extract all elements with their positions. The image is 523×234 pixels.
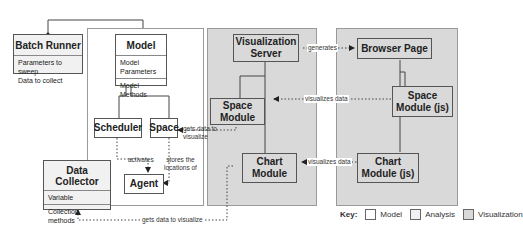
visualizes-data-space-label: visualizes data [304,95,349,103]
data-collector-attributes: Variable [44,191,110,205]
model-attr: Model [120,58,162,67]
legend-title: Key: [340,210,357,219]
legend-label-visualization: Visualization [478,210,523,219]
browser-page-title: Browser Page [361,43,428,55]
space-module-js-box: Space Module (js) [392,86,453,117]
legend-label-model: Model [380,210,402,219]
generates-label: generates [307,44,338,52]
label-line: locations of [164,164,197,172]
legend-swatch-visualization [463,209,474,220]
legend: Key: Model Analysis Visualization [340,209,523,220]
model-methods: Model Methods [116,79,166,101]
activates-label: activates [128,156,154,164]
space-box: Space [150,118,178,138]
space-module-box: Space Module [210,98,265,125]
title-line: Chart [375,156,401,168]
agent-box: Agent [124,174,164,194]
title-line: Chart [256,156,282,168]
agent-title: Agent [130,178,158,190]
title-line: Module (js) [396,102,449,114]
title-line: Module [220,112,255,124]
model-attributes: Model Parameters [116,56,166,79]
title-line: Server [250,48,281,60]
browser-page-box: Browser Page [357,38,432,59]
visualizes-data-chart-label: visualizes data [307,158,352,166]
model-attr: Parameters [120,67,162,76]
title-line: Module (js) [362,168,415,180]
visualization-server-box: Visualization Server [233,34,299,62]
label-line: stores the [164,156,197,164]
space-title: Space [149,122,178,134]
model-box: Model Model Parameters Model Methods [115,34,167,86]
label-line: gets data to [183,125,217,133]
method-line: Collection [48,207,106,216]
batch-runner-attr: Data to collect [18,76,78,85]
batch-runner-title: Batch Runner [14,35,82,56]
batch-runner-box: Batch Runner Parameters to sweep Data to… [13,34,83,74]
data-collector-methods: Collection methods [44,205,110,227]
title-line: Space [223,100,252,112]
data-collector-box: Data Collector Variable Collection metho… [43,160,111,210]
legend-swatch-model [365,209,376,220]
gets-data-space-label: gets data to visualize [183,125,217,141]
title-line: Module [252,168,287,180]
chart-module-js-box: Chart Module (js) [357,153,419,183]
batch-runner-attributes: Parameters to sweep Data to collect [14,56,82,87]
legend-swatch-analysis [410,209,421,220]
gets-data-chart-label: gets data to visualize [140,216,205,224]
model-title: Model [116,35,166,56]
stores-locations-label: stores the locations of [164,156,197,172]
scheduler-title: Scheduler [94,122,142,134]
batch-runner-attr: Parameters to sweep [18,58,78,76]
chart-module-box: Chart Module [242,153,297,183]
title-line: Space [408,90,437,102]
scheduler-box: Scheduler [94,118,142,138]
method-line: methods [48,216,106,225]
data-collector-title: Data Collector [44,161,110,191]
title-line: Visualization [236,36,297,48]
legend-label-analysis: Analysis [425,210,455,219]
label-line: visualize [183,133,217,141]
